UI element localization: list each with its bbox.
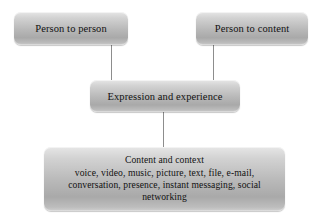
connector-person-to-person-to-expression [111,45,112,81]
diagram-canvas: Person to person Person to content Expre… [0,0,323,223]
node-person-to-person[interactable]: Person to person [14,12,128,45]
node-content-and-context-label: Content and context voice, video, music,… [44,154,285,204]
connector-expression-to-content-context [163,112,164,148]
node-content-and-context[interactable]: Content and context voice, video, music,… [44,147,285,211]
node-person-to-content[interactable]: Person to content [196,12,308,45]
node-content-and-context-detail-line-2: conversation, presence, instant messagin… [48,179,281,191]
node-content-and-context-detail-line-3: networking [48,191,281,203]
node-expression-and-experience[interactable]: Expression and experience [90,80,240,112]
node-person-to-person-label: Person to person [14,22,128,35]
node-expression-and-experience-label: Expression and experience [90,90,240,103]
node-content-and-context-heading: Content and context [48,154,281,166]
node-content-and-context-detail-line-1: voice, video, music, picture, text, file… [48,167,281,179]
node-person-to-content-label: Person to content [196,22,308,35]
connector-person-to-content-to-expression [213,45,214,81]
